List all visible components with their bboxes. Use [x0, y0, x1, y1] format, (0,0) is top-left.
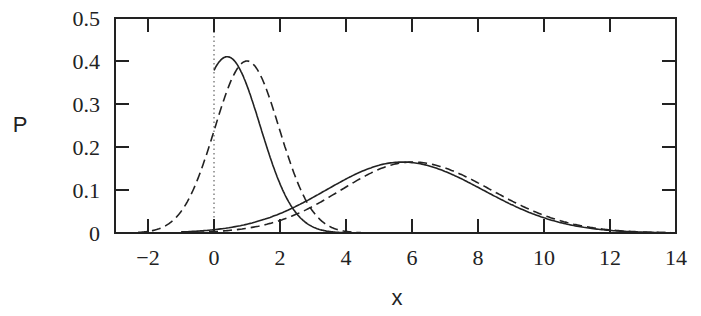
x-tick-label: 0 [209, 245, 220, 270]
solid-wide-curve [181, 162, 676, 233]
x-tick-label: 8 [473, 245, 484, 270]
x-axis-label: x [392, 285, 403, 310]
x-tick-label: −2 [136, 245, 159, 270]
dashed-narrow-curve [138, 61, 379, 233]
y-tick-label: 0.5 [73, 6, 101, 31]
x-tick-label: 4 [341, 245, 352, 270]
y-tick-label: 0 [89, 221, 100, 246]
y-axis-label: P [13, 112, 28, 137]
y-tick-label: 0.3 [73, 92, 101, 117]
x-tick-label: 6 [407, 245, 418, 270]
x-tick-label: 14 [665, 245, 687, 270]
y-axis-ticks: 00.10.20.30.40.5 [73, 6, 677, 246]
plot-frame [115, 18, 676, 233]
curves [138, 57, 676, 233]
y-tick-label: 0.1 [73, 178, 101, 203]
x-tick-label: 10 [533, 245, 555, 270]
y-tick-label: 0.4 [73, 49, 101, 74]
x-tick-label: 2 [275, 245, 286, 270]
y-tick-label: 0.2 [73, 135, 101, 160]
solid-narrow-curve [214, 57, 445, 233]
x-tick-label: 12 [599, 245, 621, 270]
chart: −202468101214 00.10.20.30.40.5 x P [0, 0, 701, 316]
